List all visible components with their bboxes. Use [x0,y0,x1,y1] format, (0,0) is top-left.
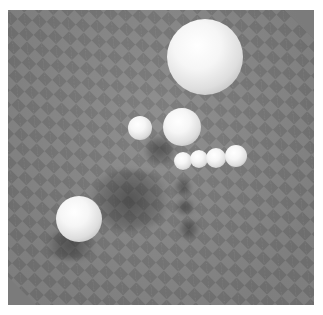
sphere-medium-center [163,108,201,146]
sphere-row-3 [206,148,226,168]
sphere-small-left [128,116,152,140]
sphere-lower-left [56,196,102,242]
sphere-shadow [177,220,201,238]
render-viewport [8,10,314,305]
sphere-shadow [173,179,193,195]
sphere-large-top [167,19,243,95]
sphere-shadow [174,199,196,215]
sphere-row-4 [225,145,247,167]
